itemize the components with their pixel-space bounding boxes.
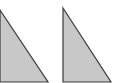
triangles-diagram — [0, 0, 113, 83]
left-right-triangle — [0, 10, 48, 82]
right-right-triangle — [63, 8, 111, 82]
